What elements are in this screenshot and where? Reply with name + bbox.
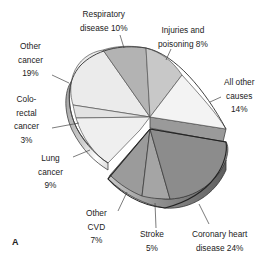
label-line: 9% (38, 179, 63, 193)
label-line: Lung (38, 152, 63, 166)
label-line: disease 10% (80, 22, 128, 36)
label-other-cancer: Other cancer 19% (18, 40, 43, 81)
label-all-other-causes: All other causes 14% (224, 76, 254, 117)
label-line: Injuries and (158, 24, 208, 38)
label-line: Stroke (140, 228, 164, 242)
label-injuries-poisoning: Injuries and poisoning 8% (158, 24, 208, 51)
label-line: 5% (140, 242, 164, 256)
label-line: Colo- (14, 93, 39, 107)
label-line: disease 24% (192, 242, 247, 256)
label-line: 7% (86, 234, 107, 248)
label-line: Other (18, 40, 43, 54)
panel-label: A (12, 237, 19, 247)
label-coronary-heart-disease: Coronary heart disease 24% (192, 228, 247, 255)
label-line: cancer (38, 166, 63, 180)
label-respiratory-disease: Respiratory disease 10% (80, 8, 128, 35)
label-line: Respiratory (80, 8, 128, 22)
label-line: CVD (86, 221, 107, 235)
label-line: 3% (14, 134, 39, 148)
label-line: Coronary heart (192, 228, 247, 242)
label-line: Other (86, 207, 107, 221)
label-line: rectal (14, 107, 39, 121)
label-line: cancer (18, 54, 43, 68)
label-lung-cancer: Lung cancer 9% (38, 152, 63, 193)
label-line: poisoning 8% (158, 38, 208, 52)
label-stroke: Stroke 5% (140, 228, 164, 255)
label-line: cancer (14, 120, 39, 134)
label-line: causes (224, 90, 254, 104)
label-line: All other (224, 76, 254, 90)
label-line: 14% (224, 103, 254, 117)
label-line: 19% (18, 67, 43, 81)
label-colorectal-cancer: Colo- rectal cancer 3% (14, 93, 39, 147)
label-other-cvd: Other CVD 7% (86, 207, 107, 248)
